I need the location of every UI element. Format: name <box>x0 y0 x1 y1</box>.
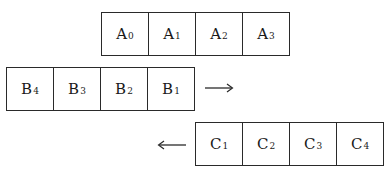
cell-b4: B4 <box>7 68 54 110</box>
row-a: A0 A1 A2 A3 <box>101 12 290 56</box>
cell-b2: B2 <box>101 68 148 110</box>
cell-a3: A3 <box>243 13 289 55</box>
cell-a2: A2 <box>196 13 243 55</box>
cell-c2: C2 <box>243 123 290 165</box>
cell-b1: B1 <box>148 68 194 110</box>
cell-b3: B3 <box>54 68 101 110</box>
cell-c4: C4 <box>337 123 383 165</box>
cell-a1: A1 <box>149 13 196 55</box>
arrow-left-icon <box>157 139 187 151</box>
arrow-right-icon <box>204 82 234 94</box>
row-b: B4 B3 B2 B1 <box>6 67 195 111</box>
cell-a0: A0 <box>102 13 149 55</box>
cell-c1: C1 <box>196 123 243 165</box>
row-c: C1 C2 C3 C4 <box>195 122 384 166</box>
cell-c3: C3 <box>290 123 337 165</box>
